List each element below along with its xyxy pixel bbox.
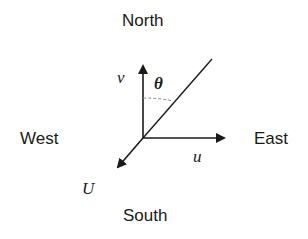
south-label: South [123, 206, 167, 226]
u-label: u [193, 147, 202, 167]
v-label: v [117, 68, 125, 88]
U-label: U [82, 179, 94, 199]
theta-label: θ [154, 74, 163, 94]
vector-diagram [0, 0, 308, 239]
theta-arc [143, 98, 173, 101]
north-label: North [122, 11, 164, 31]
west-label: West [20, 129, 58, 149]
east-label: East [254, 129, 288, 149]
U-arrow [118, 138, 143, 167]
